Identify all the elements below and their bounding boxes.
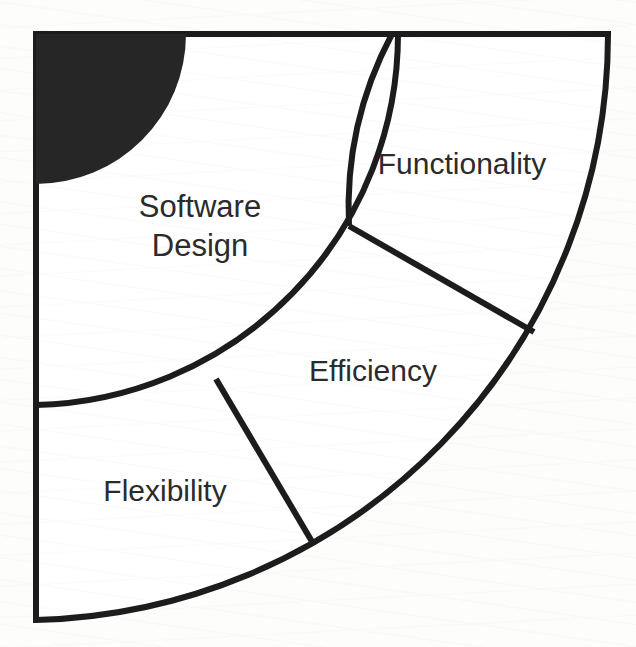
efficiency-label: Efficiency	[309, 354, 437, 387]
functionality-label: Functionality	[378, 147, 546, 180]
software-design-sector-diagram: Software Design Functionality Efficiency…	[0, 0, 636, 647]
flexibility-label: Flexibility	[103, 474, 226, 507]
diagram-page: Software Design Functionality Efficiency…	[0, 0, 636, 647]
software-design-label-line-1: Software	[139, 189, 261, 224]
software-design-label-line-2: Design	[152, 228, 249, 263]
